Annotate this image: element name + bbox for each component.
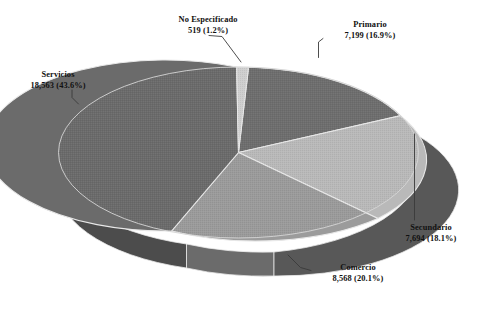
slice-label-comercio-name: Comercio: [306, 262, 410, 273]
pie-texture-overlay: [59, 67, 419, 238]
slice-label-primario: Primario 7,199 (16.9%): [318, 19, 422, 41]
slice-label-primario-value: 7,199 (16.9%): [318, 30, 422, 41]
slice-label-secundario-value: 7,694 (18.1%): [384, 233, 478, 244]
slice-label-secundario: Secundario 7,694 (18.1%): [384, 222, 478, 244]
slice-label-no-especificado-name: No Especificado: [152, 14, 264, 25]
slice-label-comercio-value: 8,568 (20.1%): [306, 273, 410, 284]
slice-label-secundario-name: Secundario: [384, 222, 478, 233]
slice-label-servicios-name: Servicios: [6, 69, 110, 80]
leader-line-no-especificado: [209, 36, 241, 63]
slice-label-no-especificado-value: 519 (1.2%): [152, 25, 264, 36]
slice-label-primario-name: Primario: [318, 19, 422, 30]
slice-label-servicios-value: 18,563 (43.6%): [6, 80, 110, 91]
leader-line-primario: [319, 39, 324, 58]
pie-chart: No Especificado 519 (1.2%) Primario 7,19…: [0, 0, 480, 310]
slice-label-servicios: Servicios 18,563 (43.6%): [6, 69, 110, 91]
pie-side-comercio: [187, 244, 275, 276]
slice-label-no-especificado: No Especificado 519 (1.2%): [152, 14, 264, 36]
slice-label-comercio: Comercio 8,568 (20.1%): [306, 262, 410, 284]
